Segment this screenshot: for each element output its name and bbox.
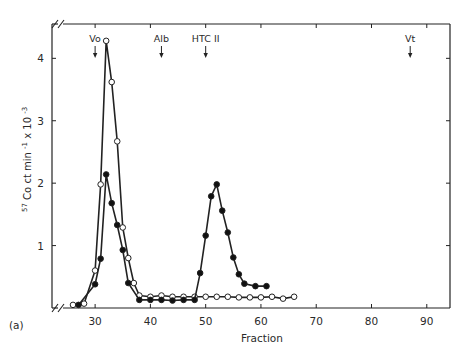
data-point bbox=[208, 193, 214, 199]
svg-text:Vt: Vt bbox=[405, 33, 415, 44]
plot-frame bbox=[52, 20, 450, 312]
data-point bbox=[148, 297, 154, 303]
data-point bbox=[236, 271, 242, 277]
svg-text:57 Co ct min -1: 57 Co ct min -1 x 10 -3 bbox=[18, 107, 33, 212]
data-point bbox=[197, 270, 203, 276]
svg-text:Alb: Alb bbox=[154, 33, 169, 44]
data-point bbox=[114, 139, 120, 145]
x-tick-label: 50 bbox=[199, 315, 212, 327]
data-point bbox=[70, 302, 76, 308]
data-point bbox=[103, 38, 109, 44]
data-point bbox=[98, 256, 104, 262]
y-label-main: Co ct min bbox=[22, 152, 33, 200]
y-label-sup1: -1 bbox=[21, 142, 29, 149]
data-point bbox=[76, 302, 82, 308]
x-axis-label: Fraction bbox=[241, 332, 283, 344]
x-tick-label: 60 bbox=[254, 315, 267, 327]
y-tick-label: 3 bbox=[37, 115, 44, 127]
data-point bbox=[181, 297, 187, 303]
data-point bbox=[125, 280, 131, 286]
elution-marker: HTC II bbox=[192, 33, 220, 58]
y-tick-label: 4 bbox=[37, 52, 44, 64]
data-point bbox=[236, 295, 242, 301]
elution-marker: Alb bbox=[154, 33, 169, 58]
data-point bbox=[219, 208, 225, 214]
y-label-isotope: 57 bbox=[21, 203, 29, 212]
data-point bbox=[264, 283, 270, 289]
x-tick-label: 70 bbox=[310, 315, 323, 327]
data-point bbox=[214, 182, 220, 188]
y-tick-label: 1 bbox=[37, 240, 44, 252]
panel-label: (a) bbox=[9, 319, 24, 331]
data-point bbox=[291, 294, 297, 300]
data-point bbox=[231, 255, 237, 261]
x-axis-ticks: 30405060708090 bbox=[88, 24, 433, 327]
chart: 30405060708090 1234 VoAlbHTC IIVt Fracti… bbox=[0, 0, 474, 353]
data-point bbox=[258, 295, 264, 301]
data-point bbox=[225, 294, 231, 300]
data-point bbox=[98, 182, 104, 188]
data-point bbox=[269, 294, 275, 300]
data-point bbox=[103, 172, 109, 178]
data-point bbox=[109, 200, 115, 206]
data-point bbox=[225, 230, 231, 236]
data-point bbox=[120, 247, 126, 253]
data-point bbox=[125, 255, 131, 261]
data-point bbox=[114, 222, 120, 228]
data-point bbox=[137, 297, 143, 303]
data-point bbox=[170, 298, 176, 304]
elution-marker: Vt bbox=[405, 33, 415, 58]
x-tick-label: 30 bbox=[88, 315, 101, 327]
x-tick-label: 90 bbox=[420, 315, 433, 327]
data-point bbox=[192, 297, 198, 303]
y-axis-label: 57 Co ct min -1 x 10 -3 bbox=[18, 107, 33, 212]
y-label-mid: x 10 bbox=[22, 117, 33, 139]
data-point bbox=[109, 79, 115, 85]
data-point bbox=[203, 294, 209, 300]
series-filled-circles bbox=[76, 172, 270, 308]
data-series bbox=[70, 38, 297, 308]
data-point bbox=[247, 295, 253, 301]
svg-text:Vo: Vo bbox=[89, 33, 101, 44]
y-tick-label: 2 bbox=[37, 177, 44, 189]
data-point bbox=[253, 283, 259, 289]
elution-markers: VoAlbHTC IIVt bbox=[89, 33, 415, 58]
data-point bbox=[92, 281, 98, 287]
data-point bbox=[242, 281, 248, 287]
y-label-sup2: -3 bbox=[21, 107, 29, 114]
svg-text:HTC II: HTC II bbox=[192, 33, 220, 44]
data-point bbox=[203, 233, 209, 239]
data-point bbox=[214, 294, 220, 300]
data-point bbox=[280, 296, 286, 302]
data-point bbox=[159, 297, 165, 303]
x-tick-label: 40 bbox=[144, 315, 157, 327]
y-axis-ticks: 1234 bbox=[37, 52, 450, 251]
data-point bbox=[120, 225, 126, 231]
elution-marker: Vo bbox=[89, 33, 101, 58]
data-point bbox=[131, 280, 137, 286]
x-tick-label: 80 bbox=[365, 315, 378, 327]
